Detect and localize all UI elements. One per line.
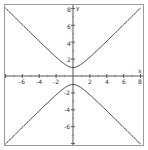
x-tick-label: 4 [105,78,109,85]
x-tick-label: -6 [19,78,25,85]
y-tick-label: 2 [67,56,71,63]
y-axis-label: y [76,4,80,12]
y-tick-label: -2 [64,89,70,96]
y-tick-label: -4 [64,106,70,113]
x-tick-label: -2 [53,78,59,85]
x-tick-label: -4 [36,78,42,85]
x-tick-label: 6 [122,78,126,85]
y-tick-label: 4 [67,40,71,47]
x-tick-label: 2 [88,78,92,85]
y-tick-label: -6 [64,123,70,130]
y-tick-label: 8 [67,6,71,13]
x-axis-label: x [138,67,142,74]
hyperbola-plot: y x -6 -4 -2 2 4 6 8 8 6 4 2 -2 -4 -6 [0,0,148,150]
x-tick-label: 8 [138,78,142,85]
y-tick-label: 6 [67,23,71,30]
